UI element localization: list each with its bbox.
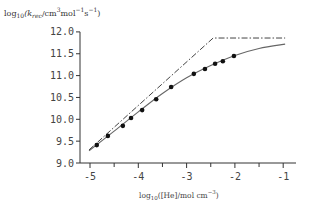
data-point [221,59,226,64]
data-point [232,54,237,59]
axes: 9.09.510.010.511.011.512.0-5-4-3-2-1 [50,26,296,182]
x-label-sub: 10 [151,195,158,201]
x-axis-label: log10([He]/mol cm−3) [139,189,219,201]
y-tick-label: 12.0 [50,26,74,37]
data-point [154,97,159,102]
x-tick-label: -4 [132,171,144,182]
data-point [192,72,197,77]
data-point [121,124,126,129]
x-tick-label: -3 [181,171,193,182]
fit-curve [89,44,285,151]
x-label-log: log [139,191,151,200]
data-point [203,67,208,72]
chart-plot: 9.09.510.010.511.011.512.0-5-4-3-2-1 [0,0,313,216]
x-label-body: ([He]/mol cm [158,191,208,200]
x-label-sup: −3 [208,189,216,195]
limit-lines [89,38,285,150]
y-tick-label: 10.5 [50,92,74,103]
y-tick-label: 9.0 [56,158,74,169]
data-point [169,85,174,90]
data-point [94,143,99,148]
series-layer [89,38,285,151]
data-point [129,116,134,121]
data-point [213,62,218,67]
y-tick-label: 11.5 [50,48,74,59]
y-tick-label: 10.0 [50,114,74,125]
x-label-close: ) [216,191,219,200]
data-point [106,134,111,139]
y-tick-label: 11.0 [50,70,74,81]
data-point [140,108,145,113]
x-tick-label: -1 [277,171,289,182]
x-tick-label: -2 [229,171,241,182]
y-tick-label: 9.5 [56,136,74,147]
x-tick-label: -5 [84,171,96,182]
